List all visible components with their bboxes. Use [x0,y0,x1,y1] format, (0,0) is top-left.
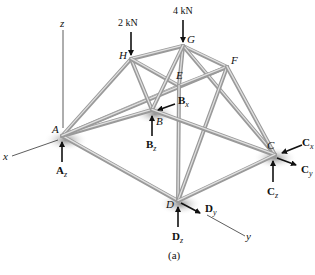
reaction-label-Cx: Cx [302,137,314,151]
node-label-A: A [52,124,59,135]
member-highlight-AH [62,58,131,135]
load-label-H: 2 kN [118,18,138,28]
reaction-label-Bz: Bz [146,139,156,153]
member-highlight-HG [131,45,183,58]
node-label-E: E [176,70,183,81]
reaction-label-Bx: Bx [178,95,189,109]
node-label-F: F [231,55,238,66]
y-axis-label: y [246,231,251,242]
x-axis-label: x [3,151,8,162]
node-label-G: G [187,34,195,45]
node-label-C: C [267,140,274,151]
load-label-G: 4 kN [173,6,193,16]
space-truss-diagram [0,0,315,275]
truss-members [62,45,275,201]
y-axis [207,215,245,236]
reaction-label-Az: Az [56,165,67,179]
reaction-label-Cy: Cy [301,164,313,178]
node-label-D: D [166,199,174,210]
node-label-B: B [156,116,163,127]
reaction-label-Dy: Dy [205,203,217,217]
figure-caption: (a) [168,250,180,261]
reaction-label-Cz: Cz [267,186,278,200]
z-axis-label: z [60,18,64,29]
member-highlight-AD [62,135,178,200]
reaction-label-Dz: Dz [172,231,183,245]
node-label-H: H [119,50,127,61]
